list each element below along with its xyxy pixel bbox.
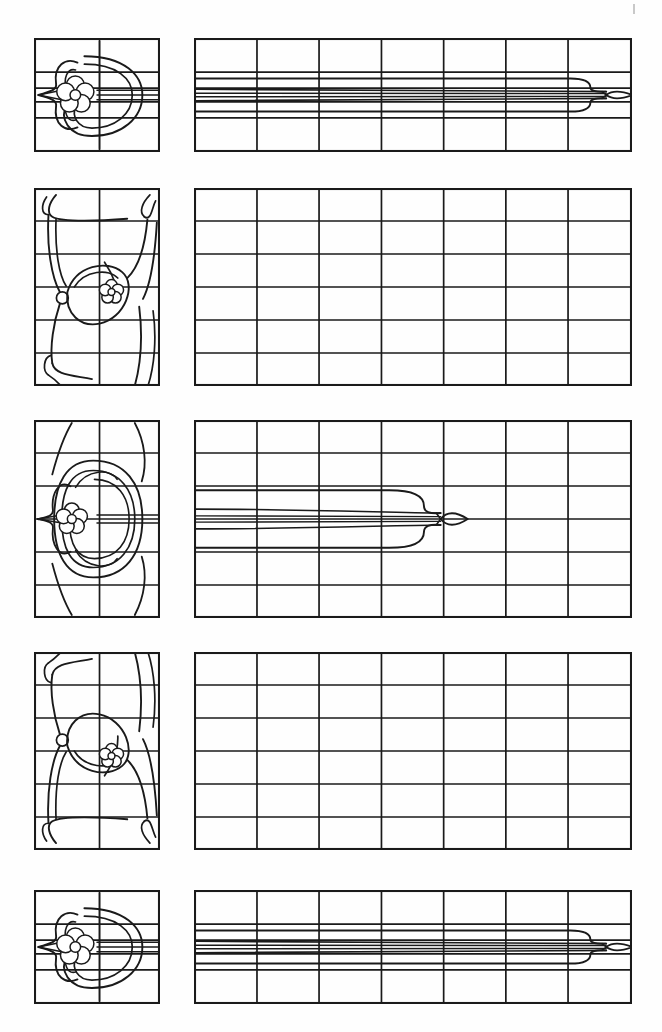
motif-rosette-with-fan-leaf xyxy=(38,41,159,148)
panel-grid xyxy=(35,39,159,151)
motif-rosette-with-fan-leaf xyxy=(38,893,159,1000)
pattern-row xyxy=(0,0,662,1032)
right-grid-panel xyxy=(194,188,632,386)
right-grid-panel-canvas xyxy=(194,652,632,850)
pattern-sheet xyxy=(0,0,662,1032)
right-grid-panel-canvas xyxy=(194,890,632,1004)
motif-short-spear-leaf xyxy=(195,490,468,547)
left-motif-panel-canvas xyxy=(34,420,160,618)
panel-grid xyxy=(35,189,159,385)
right-grid-panel-canvas xyxy=(194,420,632,618)
panel-grid xyxy=(35,421,159,617)
registration-tick-icon xyxy=(633,4,635,14)
right-grid-panel xyxy=(194,420,632,618)
motif-full-rose-with-scrolls xyxy=(38,423,159,615)
right-grid-panel xyxy=(194,890,632,1004)
right-grid-panel-canvas xyxy=(194,38,632,152)
right-grid-panel xyxy=(194,38,632,152)
motif-long-spear-leaf xyxy=(195,930,632,963)
panel-grid xyxy=(35,653,159,849)
panel-grid xyxy=(195,891,631,1003)
panel-grid xyxy=(35,891,159,1003)
left-motif-panel xyxy=(34,890,160,1004)
motif-whiplash-scroll-upper-flower xyxy=(43,195,157,386)
pattern-row xyxy=(0,0,662,1032)
left-motif-panel xyxy=(34,420,160,618)
right-grid-panel-canvas xyxy=(194,188,632,386)
pattern-row xyxy=(0,0,662,1032)
panel-grid xyxy=(195,653,631,849)
right-grid-panel xyxy=(194,652,632,850)
left-motif-panel xyxy=(34,652,160,850)
left-motif-panel-canvas xyxy=(34,890,160,1004)
panel-grid xyxy=(195,421,631,617)
left-motif-panel-canvas xyxy=(34,38,160,152)
left-motif-panel xyxy=(34,38,160,152)
motif-long-spear-leaf xyxy=(195,78,632,111)
left-motif-panel xyxy=(34,188,160,386)
pattern-row xyxy=(0,0,662,1032)
panel-grid xyxy=(195,189,631,385)
panel-grid xyxy=(195,39,631,151)
pattern-row xyxy=(0,0,662,1032)
left-motif-panel-canvas xyxy=(34,652,160,850)
motif-whiplash-scroll-lower-flower xyxy=(43,652,157,843)
left-motif-panel-canvas xyxy=(34,188,160,386)
